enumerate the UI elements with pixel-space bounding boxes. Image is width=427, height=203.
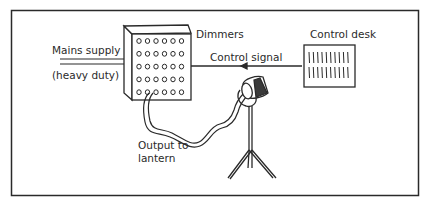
control-signal-line bbox=[191, 63, 302, 69]
lantern bbox=[228, 76, 276, 179]
control-desk bbox=[304, 45, 355, 87]
control-desk-label: Control desk bbox=[310, 28, 376, 40]
control-signal-label: Control signal bbox=[210, 51, 282, 63]
mains-cable bbox=[60, 59, 129, 64]
mains-label-line2: (heavy duty) bbox=[52, 69, 119, 81]
dimmer-box bbox=[124, 25, 191, 100]
mains-label-line1: Mains supply bbox=[52, 44, 120, 56]
output-label-line2: lantern bbox=[138, 152, 175, 164]
output-label-line1: Output to bbox=[138, 139, 188, 151]
dimmers-label: Dimmers bbox=[196, 28, 244, 40]
